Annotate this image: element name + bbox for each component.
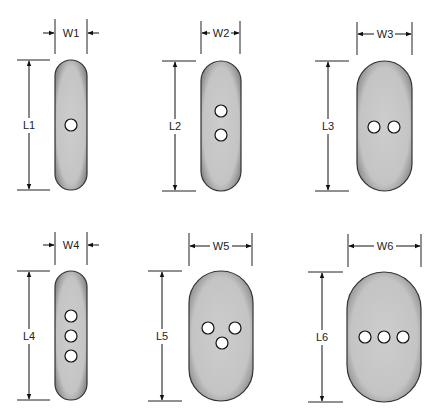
- shape-4: W4 L4: [17, 232, 99, 400]
- w6-label: W6: [377, 240, 394, 252]
- shape-1: W1 L1: [17, 19, 99, 190]
- w3-label: W3: [377, 28, 394, 40]
- slot-plate-5: [189, 271, 253, 401]
- hole: [65, 330, 77, 342]
- hole: [215, 105, 227, 117]
- shape-2: W2 L2: [162, 21, 241, 191]
- slot-plate-3: [357, 61, 412, 191]
- hole: [65, 119, 77, 131]
- hole: [388, 121, 400, 133]
- l4-label: L4: [23, 330, 35, 342]
- l5-label: L5: [156, 330, 168, 342]
- shape-3: W3 L3: [315, 22, 412, 191]
- w1-label: W1: [63, 27, 80, 39]
- hole: [215, 129, 227, 141]
- slot-plate-2: [201, 61, 241, 191]
- shape-5: W5 L5: [148, 233, 253, 401]
- hole: [378, 331, 390, 343]
- hole: [368, 121, 380, 133]
- hole: [229, 322, 241, 334]
- slot-diagram: W1 L1 W2 L2 W3 L3: [0, 0, 441, 420]
- l3-label: L3: [322, 120, 334, 132]
- shape-6: W6 L6: [308, 234, 421, 402]
- w5-label: W5: [213, 240, 230, 252]
- hole: [216, 337, 228, 349]
- l1-label: L1: [23, 119, 35, 131]
- w2-label: W2: [213, 27, 230, 39]
- l2-label: L2: [169, 120, 181, 132]
- hole: [202, 322, 214, 334]
- hole: [65, 310, 77, 322]
- hole: [359, 331, 371, 343]
- l6-label: L6: [316, 331, 328, 343]
- hole: [397, 331, 409, 343]
- hole: [65, 350, 77, 362]
- w4-label: W4: [63, 239, 80, 251]
